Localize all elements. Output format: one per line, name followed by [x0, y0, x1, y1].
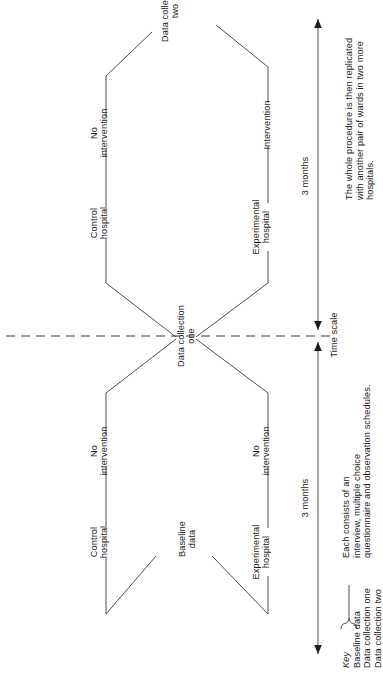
- key-brace-note-line-1: Each consists of an: [341, 476, 351, 558]
- edge-control-left-to-dc1: [106, 339, 176, 393]
- edge-experimental-right-to-dc2: [216, 25, 268, 67]
- timescale-left-arrowhead: [314, 645, 322, 654]
- node-no-intervention-left-top: No intervention: [89, 427, 110, 476]
- node-no-intervention-left-bottom: No intervention: [251, 427, 272, 476]
- node-intervention-right-bottom: Intervention: [262, 100, 272, 149]
- edge-baseline-to-control: [106, 556, 156, 614]
- timescale-left-duration-label: 3 months: [300, 479, 310, 518]
- replication-note-line-1: The whole procedure is then replicated: [344, 38, 354, 200]
- node-control-hospital-right: Control hospital: [89, 207, 110, 239]
- edge-control-right-to-dc2: [106, 32, 152, 76]
- timescale-right-duration-label: 3 months: [300, 157, 310, 196]
- edge-dc1-to-control-right: [106, 283, 176, 337]
- node-no-intervention-right-top: No intervention: [89, 109, 110, 158]
- key-title: Key: [341, 652, 351, 668]
- node-data-collection-one: Data collection one: [176, 305, 197, 367]
- node-control-hospital-left: Control hospital: [89, 526, 110, 558]
- node-baseline-data: Baseline data: [177, 521, 198, 557]
- key-item-data-collection-one: Data collection one: [362, 588, 372, 668]
- timescale-origin-arrowhead-left: [314, 342, 322, 351]
- timescale-right-arrowhead: [314, 19, 322, 28]
- node-experimental-hospital-left: Experimental hospital: [251, 525, 272, 580]
- key-brace-note-line-2: interview, multiple choice: [352, 454, 362, 558]
- key-item-baseline-data: Baseline data: [352, 611, 362, 668]
- key-item-data-collection-two: Data collection two: [373, 589, 383, 668]
- timescale-label: Time scale: [329, 312, 339, 357]
- edge-experimental-left-to-dc1: [196, 339, 268, 393]
- edge-dc1-to-experimental-right: [196, 283, 268, 337]
- node-experimental-hospital-right: Experimental hospital: [251, 200, 272, 255]
- replication-note-line-2: with another pair of wards in two more: [355, 41, 365, 200]
- replication-note-line-3: hospitals.: [365, 160, 375, 200]
- timescale-origin-arrowhead-right: [314, 321, 322, 330]
- node-data-collection-two: Data collection two: [160, 0, 181, 42]
- key-brace-note-line-3: questionnaire and observation schedules.: [362, 384, 372, 558]
